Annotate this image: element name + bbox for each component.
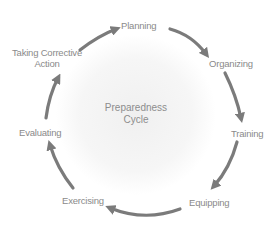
stage-label-line: Taking Corrective (12, 47, 82, 58)
stage-label-line: Action (12, 58, 82, 69)
center-title-line: Preparedness (96, 102, 176, 114)
stage-organizing: Organizing (209, 58, 253, 69)
stage-evaluating: Evaluating (19, 127, 61, 138)
center-title-line: Cycle (96, 114, 176, 126)
arrow-organizing-to-training (225, 73, 241, 118)
center-title: Preparedness Cycle (96, 102, 176, 126)
stage-taking-corrective-action: Taking Corrective Action (12, 47, 82, 69)
arrow-equipping-to-exercising (110, 208, 180, 215)
stage-equipping: Equipping (189, 197, 229, 208)
arrow-training-to-equipping (214, 142, 237, 186)
stage-training: Training (231, 128, 263, 139)
stage-exercising: Exercising (62, 195, 104, 206)
stage-planning: Planning (121, 20, 156, 31)
